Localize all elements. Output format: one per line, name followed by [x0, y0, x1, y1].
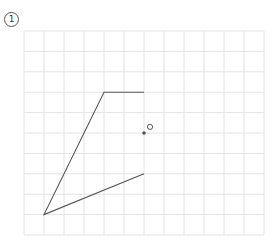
center-dot	[142, 131, 146, 135]
reference-point-circle	[147, 124, 152, 129]
grid-figure	[0, 0, 275, 249]
